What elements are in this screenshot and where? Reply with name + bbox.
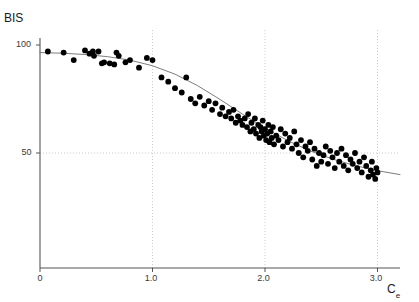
data-point [217, 111, 223, 117]
data-point [219, 105, 225, 111]
data-point [101, 59, 107, 65]
data-point [127, 57, 133, 63]
y-tick-label-50: 50 [21, 148, 31, 157]
data-point [159, 75, 165, 81]
data-point [361, 154, 367, 160]
data-point [300, 154, 306, 160]
gridlines-group [40, 30, 400, 268]
data-point [192, 100, 198, 106]
data-point [352, 150, 358, 156]
data-point [96, 49, 102, 55]
data-point [245, 111, 251, 117]
data-point [183, 75, 189, 81]
data-point [343, 152, 349, 158]
tick-marks-group [36, 45, 378, 272]
data-point [369, 159, 375, 165]
data-point [363, 163, 369, 169]
data-point [188, 96, 194, 102]
data-point [289, 146, 295, 152]
data-point [116, 53, 122, 59]
data-point [165, 79, 171, 85]
data-point [359, 170, 365, 176]
data-point [206, 98, 212, 104]
data-point [179, 90, 185, 96]
data-point [294, 141, 300, 147]
data-point [357, 159, 363, 165]
data-point [111, 62, 117, 68]
data-point [312, 146, 318, 152]
data-points-group [45, 48, 380, 182]
data-point [298, 137, 304, 143]
data-point [271, 141, 277, 147]
data-point [327, 148, 333, 154]
data-point [325, 161, 331, 167]
data-point [341, 163, 347, 169]
x-axis-title-subscript: e [396, 291, 400, 300]
data-point [136, 65, 142, 71]
data-point [150, 57, 156, 63]
data-point [296, 150, 302, 156]
data-point [231, 107, 237, 113]
data-point [172, 85, 178, 91]
data-point [332, 165, 338, 171]
x-tick-label-2.0: 2.0 [257, 274, 270, 283]
y-tick-label-100: 100 [16, 40, 31, 49]
y-axis-title: BIS [4, 12, 23, 24]
data-point [330, 154, 336, 160]
data-point [375, 170, 381, 176]
data-point [71, 57, 77, 63]
plot-canvas [0, 0, 419, 302]
data-point [350, 161, 356, 167]
data-point [213, 100, 219, 106]
x-axis-title-base: C [387, 282, 396, 296]
data-point [278, 126, 284, 132]
data-point [61, 50, 67, 56]
data-point [228, 116, 234, 122]
data-point [345, 167, 351, 173]
data-point [354, 165, 360, 171]
data-point [91, 53, 97, 59]
data-point [291, 129, 297, 135]
data-point [260, 118, 266, 124]
data-point [318, 159, 324, 165]
data-point [372, 176, 378, 182]
data-point [201, 103, 207, 109]
data-point [334, 150, 340, 156]
x-axis-title: Ce [387, 283, 400, 298]
data-point [305, 148, 311, 154]
data-point [197, 94, 203, 100]
x-tick-label-0: 0 [37, 274, 42, 283]
data-point [323, 144, 329, 150]
data-point [45, 49, 51, 55]
bis-concentration-scatter-figure: BIS Ce 01.02.03.010050 [0, 0, 419, 302]
data-point [309, 157, 315, 163]
data-point [280, 144, 286, 150]
data-point [321, 152, 327, 158]
data-point [276, 137, 282, 143]
data-point [307, 139, 313, 145]
data-point [252, 116, 258, 122]
data-point [144, 55, 150, 61]
data-point [339, 146, 345, 152]
x-tick-label-3.0: 3.0 [370, 274, 383, 283]
data-point [287, 135, 293, 141]
data-point [314, 163, 320, 169]
data-point [270, 124, 276, 130]
data-point [336, 159, 342, 165]
data-point [209, 107, 215, 113]
data-point [282, 131, 288, 137]
x-tick-label-1.0: 1.0 [145, 274, 158, 283]
